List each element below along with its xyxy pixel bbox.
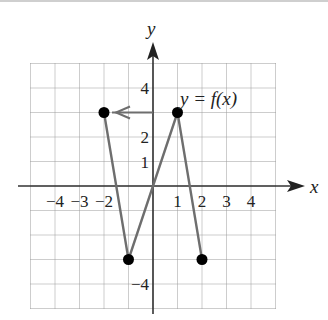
function-graph: x y −4−3−21234 421−4 y = f(x) <box>0 0 328 320</box>
axes <box>18 42 305 314</box>
mapping-arrow <box>112 107 153 119</box>
y-tick-label: −4 <box>131 275 150 294</box>
x-tick-label: −4 <box>46 192 65 211</box>
y-tick-label: 1 <box>141 153 150 172</box>
function-label-text: y = f(x) <box>178 88 237 110</box>
x-tick-label: 3 <box>222 192 231 211</box>
data-point <box>123 254 134 265</box>
x-tick-label: −2 <box>95 192 113 211</box>
x-tick-label: 4 <box>247 192 256 211</box>
y-axis-label: y <box>145 18 156 39</box>
x-axis-label: x <box>309 176 319 197</box>
x-tick-label: 1 <box>173 192 182 211</box>
y-tick-label: 4 <box>141 79 150 98</box>
x-tick-label: 2 <box>198 192 207 211</box>
x-tick-label: −3 <box>70 192 88 211</box>
data-point <box>197 254 208 265</box>
function-label: y = f(x) <box>178 88 237 110</box>
data-point <box>99 107 110 118</box>
y-tick-label: 2 <box>141 128 150 147</box>
